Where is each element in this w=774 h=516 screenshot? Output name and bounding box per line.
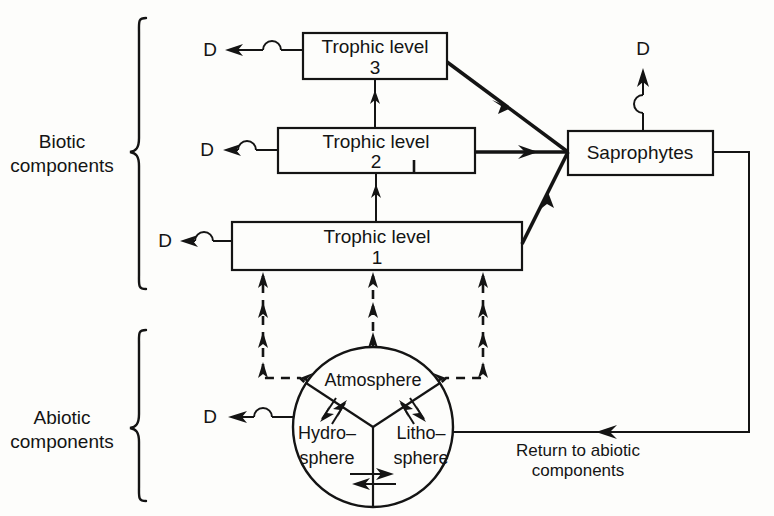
flow-arrow-trophic2-to-trophic3: [370, 79, 380, 128]
abiotic-brace: [130, 330, 146, 501]
abiotic-components-label-line1: Abiotic: [33, 407, 90, 428]
detritus-loss-hydrosphere: D: [203, 406, 296, 427]
hydrosphere-label-line1: Hydro–: [298, 423, 356, 443]
atmosphere-label: Atmosphere: [324, 370, 421, 390]
detritus-label-saprophytes: D: [636, 38, 650, 59]
biotic-components-label-line1: Biotic: [39, 131, 85, 152]
trophic-level-3-label-line2: 3: [370, 57, 381, 78]
detritus-label-hydrosphere: D: [203, 406, 217, 427]
return-to-abiotic-label-line1: Return to abiotic: [516, 441, 640, 460]
lithosphere-label-line1: Litho–: [396, 423, 445, 443]
lithosphere-label-line2: sphere: [393, 448, 448, 468]
ecosystem-flow-diagram: Biotic components Abiotic components Tro…: [0, 0, 774, 516]
trophic-level-3-label-line1: Trophic level: [321, 36, 428, 57]
flow-trophic2-to-saprophytes: [475, 145, 568, 159]
trophic-level-1-label-line2: 1: [372, 247, 383, 268]
trophic-level-2-label-line1: Trophic level: [322, 131, 429, 152]
hydrosphere-label-line2: sphere: [299, 448, 354, 468]
uptake-arrow-left: [258, 272, 316, 393]
abiotic-components-label-line2: components: [10, 431, 114, 452]
detritus-loss-trophic1: D: [158, 230, 232, 251]
detritus-label-trophic1: D: [158, 230, 172, 251]
detritus-label-trophic3: D: [203, 39, 217, 60]
uptake-arrow-right: [430, 272, 488, 393]
detritus-loss-trophic3: D: [203, 39, 303, 60]
biotic-components-label-line2: components: [10, 155, 114, 176]
uptake-arrow-center: [368, 272, 378, 348]
trophic-level-1-label-line1: Trophic level: [323, 226, 430, 247]
biotic-brace: [130, 18, 146, 289]
flow-arrow-trophic1-to-trophic2: [371, 173, 381, 222]
detritus-loss-trophic2: D: [200, 139, 278, 160]
return-to-abiotic-label-line2: components: [532, 461, 625, 480]
detritus-loss-saprophytes: D: [634, 38, 650, 131]
return-to-abiotic-path: [451, 152, 749, 439]
flow-trophic1-to-saprophytes: [522, 152, 568, 244]
detritus-label-trophic2: D: [200, 139, 214, 160]
saprophytes-label: Saprophytes: [587, 142, 694, 163]
trophic-level-2-label-line2: 2: [371, 151, 382, 172]
